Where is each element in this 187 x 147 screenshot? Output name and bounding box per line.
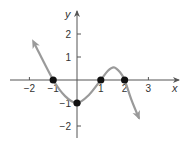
x-tick-label: 1 [98,83,104,94]
y-tick-label: 1 [65,52,71,63]
highlighted-point [121,76,128,83]
y-axis-label: y [64,8,72,20]
highlighted-point [73,99,80,106]
y-tick-label: 2 [65,29,71,40]
x-tick-label: −2 [24,83,36,94]
highlighted-point [97,76,104,83]
y-tick-label: −2 [60,121,72,132]
function-graph: −2−1123 21−1−2 x y [0,0,187,147]
x-tick-label: 3 [146,83,152,94]
x-axis-label: x [171,82,178,94]
highlighted-point [50,76,57,83]
